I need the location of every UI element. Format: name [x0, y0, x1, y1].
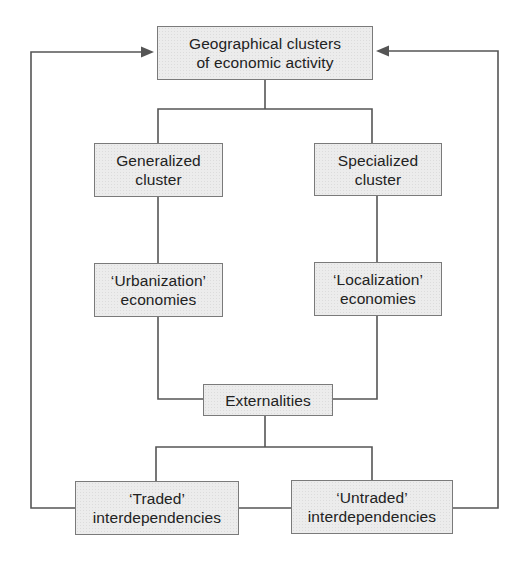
node-label: interdependencies [308, 507, 436, 526]
node-specialized-cluster: Specialized cluster [314, 143, 442, 196]
node-label: Generalized [116, 151, 201, 170]
node-label: of economic activity [196, 53, 333, 72]
connector-lines [0, 0, 530, 562]
edge-clusters-branch [158, 109, 372, 143]
node-label: cluster [135, 170, 181, 189]
node-generalized-cluster: Generalized cluster [94, 143, 223, 197]
cluster-externalities-diagram: Geographical clusters of economic activi… [0, 0, 530, 562]
node-untraded-interdependencies: ‘Untraded’ interdependencies [291, 480, 453, 534]
edge-externalities-branch [156, 447, 372, 481]
node-externalities: Externalities [203, 384, 333, 416]
node-label: Externalities [225, 391, 311, 410]
node-localization-economies: ‘Localization’ economies [314, 262, 442, 316]
node-label: ‘Urbanization’ [111, 271, 206, 290]
node-label: Geographical clusters [189, 34, 341, 53]
node-label: Specialized [338, 151, 418, 170]
node-label: economies [340, 289, 416, 308]
edge-urbanization-externalities [158, 316, 203, 399]
edge-localization-externalities [332, 315, 377, 399]
node-geographical-clusters: Geographical clusters of economic activi… [157, 26, 373, 80]
node-label: economies [121, 290, 197, 309]
node-label: ‘Traded’ [129, 489, 185, 508]
node-label: ‘Untraded’ [336, 488, 408, 507]
node-traded-interdependencies: ‘Traded’ interdependencies [75, 481, 239, 535]
node-label: cluster [355, 170, 401, 189]
arrowhead-left-icon [141, 47, 154, 58]
node-label: interdependencies [93, 508, 221, 527]
node-urbanization-economies: ‘Urbanization’ economies [94, 263, 223, 317]
arrowhead-right-icon [376, 46, 389, 57]
node-label: ‘Localization’ [333, 270, 423, 289]
